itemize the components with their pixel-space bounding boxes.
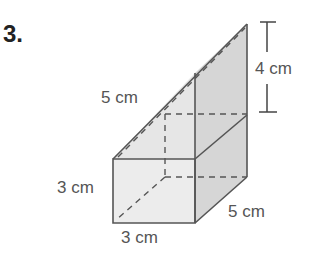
right-side-face bbox=[195, 24, 247, 223]
front-face bbox=[113, 159, 195, 223]
label-width-front: 3 cm bbox=[121, 228, 158, 248]
label-height-front: 3 cm bbox=[57, 178, 94, 198]
label-slant: 5 cm bbox=[101, 88, 138, 108]
composite-prism-figure bbox=[0, 0, 327, 253]
label-height-top: 4 cm bbox=[255, 59, 292, 79]
label-depth: 5 cm bbox=[228, 202, 265, 222]
